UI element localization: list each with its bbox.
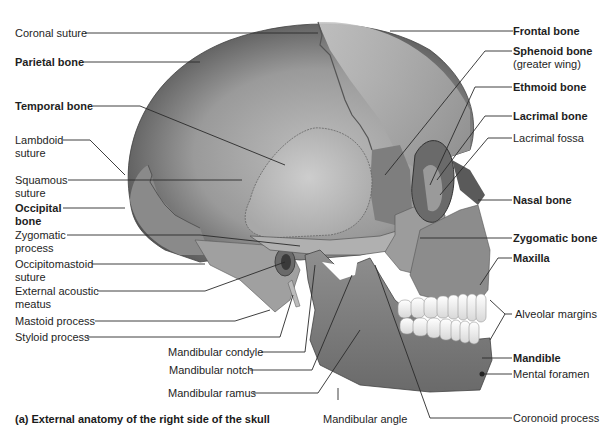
label-coronoid-process: Coronoid process bbox=[513, 412, 599, 425]
label-occipital-bone: Occipitalbone bbox=[15, 202, 61, 228]
label-lacrimal-bone: Lacrimal bone bbox=[513, 110, 588, 123]
label-lambdoid-suture: Lambdoidsuture bbox=[15, 134, 63, 160]
label-occipitomastoid-suture: Occipitomastoidsuture bbox=[15, 258, 93, 284]
label-mandibular-ramus: Mandibular ramus bbox=[168, 387, 256, 400]
skull-diagram: Coronal suture Parietal bone Temporal bo… bbox=[0, 0, 604, 442]
label-parietal-bone: Parietal bone bbox=[15, 56, 84, 69]
label-zygomatic-bone: Zygomatic bone bbox=[513, 232, 597, 245]
mental-foramen-dot bbox=[480, 372, 485, 377]
label-maxilla: Maxilla bbox=[513, 252, 550, 265]
label-styloid-process: Styloid process bbox=[15, 331, 90, 344]
label-external-acoustic-meatus: External acousticmeatus bbox=[15, 285, 99, 311]
nasal-bone-shape bbox=[452, 160, 485, 205]
label-frontal-bone: Frontal bone bbox=[513, 25, 580, 38]
label-sphenoid-bone: Sphenoid bone(greater wing) bbox=[513, 45, 592, 71]
label-mental-foramen: Mental foramen bbox=[513, 368, 589, 381]
label-alveolar-margins: Alveolar margins bbox=[515, 308, 597, 321]
label-mandible: Mandible bbox=[513, 352, 561, 365]
label-zygomatic-process: Zygomaticprocess bbox=[15, 229, 66, 255]
figure-caption: (a) External anatomy of the right side o… bbox=[15, 413, 270, 425]
label-mandibular-notch: Mandibular notch bbox=[169, 364, 253, 377]
label-temporal-bone: Temporal bone bbox=[15, 100, 93, 113]
label-ethmoid-bone: Ethmoid bone bbox=[513, 81, 586, 94]
label-mandibular-condyle: Mandibular condyle bbox=[168, 346, 263, 359]
label-mandibular-angle: Mandibular angle bbox=[323, 413, 407, 426]
label-squamous-suture: Squamoussuture bbox=[15, 174, 68, 200]
label-coronal-suture: Coronal suture bbox=[15, 27, 87, 40]
label-lacrimal-fossa: Lacrimal fossa bbox=[513, 132, 584, 145]
label-nasal-bone: Nasal bone bbox=[513, 194, 572, 207]
label-mastoid-process: Mastoid process bbox=[15, 315, 95, 328]
